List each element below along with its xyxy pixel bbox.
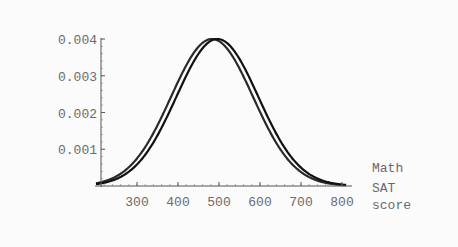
- x-tick-label: 400: [166, 195, 189, 210]
- x-tick-label: 700: [289, 195, 312, 210]
- chart: 0.0010.0020.0030.004 300400500600700800 …: [0, 0, 458, 247]
- axes: [95, 38, 352, 187]
- y-tick-label: 0.002: [58, 107, 97, 122]
- x-tick-label: 300: [125, 195, 148, 210]
- density-curve-curve-1: [96, 39, 346, 185]
- y-tick-label: 0.004: [58, 33, 97, 48]
- y-ticks: 0.0010.0020.0030.004: [58, 33, 105, 179]
- x-tick-label: 600: [248, 195, 271, 210]
- y-tick-label: 0.003: [58, 70, 97, 85]
- x-axis-title-line-1: Math: [372, 161, 403, 176]
- x-axis-title-line-2: SAT: [372, 181, 396, 196]
- x-axis-title-line-3: score: [372, 198, 411, 213]
- x-tick-label: 500: [207, 195, 230, 210]
- x-tick-label: 800: [330, 195, 353, 210]
- density-curves: [96, 39, 346, 185]
- y-tick-label: 0.001: [58, 143, 97, 158]
